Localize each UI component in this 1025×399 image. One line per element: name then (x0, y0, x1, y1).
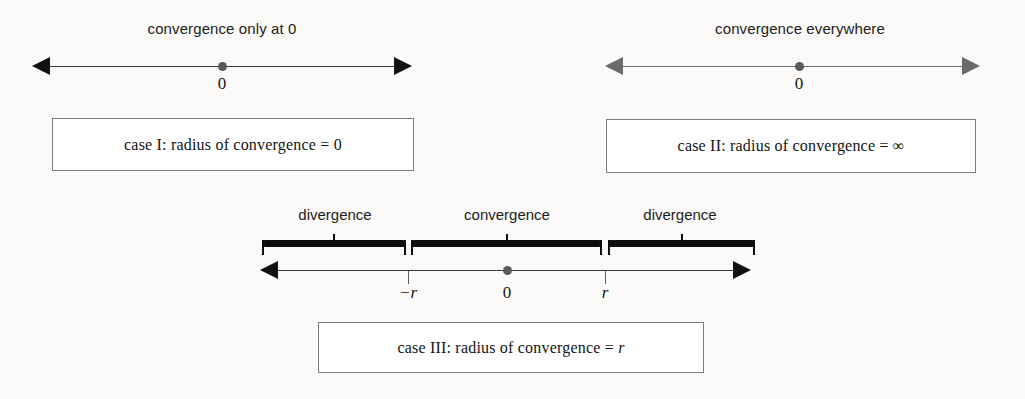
case-3-label-zero: 0 (503, 283, 512, 303)
case-3-box-value: r (618, 339, 624, 356)
case-3-label-minus-r: −r (399, 283, 417, 303)
brace-end-right (600, 240, 602, 255)
case-3-box: case III: radius of convergence = r (318, 322, 704, 373)
case-3-label-divergence-left: divergence (298, 206, 371, 223)
case-3-brace-divergence-left (262, 240, 406, 256)
case-1-origin-label: 0 (218, 74, 227, 94)
case-3-box-prefix: case III: radius of convergence = (397, 339, 618, 356)
brace-end-left (262, 240, 264, 255)
case-2-box-value: ∞ (893, 137, 905, 154)
case-2-left-arrowhead (605, 57, 623, 75)
case-2-panel: convergence everywhere 0 case II: radius… (575, 0, 1025, 190)
case-2-right-arrowhead (962, 57, 980, 75)
case-3-panel: divergence convergence divergence (0, 195, 1025, 399)
case-3-plus-r-text: r (602, 283, 609, 302)
brace-center-nub (681, 234, 683, 242)
case-2-box-text: case II: radius of convergence = ∞ (678, 137, 905, 155)
case-2-origin-dot (795, 62, 804, 71)
case-3-label-plus-r: r (602, 283, 609, 303)
case-2-box-prefix: case II: radius of convergence = (678, 137, 893, 154)
case-1-right-arrowhead (394, 57, 412, 75)
case-2-axis (619, 66, 969, 67)
case-3-right-arrowhead (733, 261, 751, 279)
case-3-brace-convergence (411, 240, 602, 256)
case-1-box-prefix: case I: radius of convergence = (124, 136, 334, 153)
case-3-label-divergence-right: divergence (643, 206, 716, 223)
case-2-box: case II: radius of convergence = ∞ (606, 119, 976, 173)
case-1-box: case I: radius of convergence = 0 (52, 118, 414, 171)
case-3-left-arrowhead (260, 261, 278, 279)
brace-center-nub (506, 234, 508, 242)
case-2-caption: convergence everywhere (715, 20, 885, 37)
case-1-box-text: case I: radius of convergence = 0 (124, 136, 342, 154)
case-2-origin-label: 0 (795, 74, 804, 94)
brace-end-right (404, 240, 406, 255)
case-3-minus-r-text: −r (399, 283, 417, 302)
case-1-box-value: 0 (334, 136, 342, 153)
case-3-brace-divergence-right (608, 240, 755, 256)
case-1-left-arrowhead (32, 57, 50, 75)
case-3-label-convergence: convergence (464, 206, 550, 223)
brace-end-left (608, 240, 610, 255)
case-1-panel: convergence only at 0 0 case I: radius o… (0, 0, 460, 190)
case-3-box-text: case III: radius of convergence = r (397, 339, 624, 357)
brace-end-left (411, 240, 413, 255)
brace-center-nub (333, 234, 335, 242)
figure-canvas: convergence only at 0 0 case I: radius o… (0, 0, 1025, 399)
case-1-origin-dot (218, 62, 227, 71)
case-1-caption: convergence only at 0 (148, 20, 297, 37)
brace-end-right (753, 240, 755, 255)
case-3-origin-dot (503, 266, 512, 275)
